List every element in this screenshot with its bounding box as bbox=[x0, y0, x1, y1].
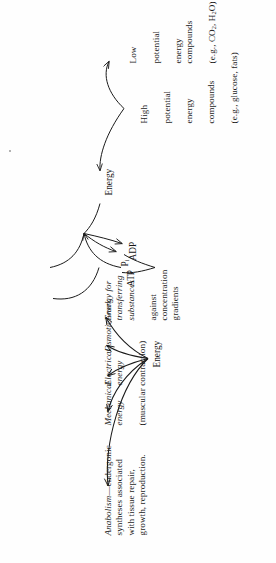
low-line-4: (e.g., CO2, H2O) bbox=[207, 0, 220, 63]
mechanical-rest: (muscular contraction) bbox=[137, 305, 148, 425]
transport-rest: against concentration gradients bbox=[148, 210, 182, 320]
low-line-3: energy compounds bbox=[173, 0, 195, 63]
low-line-4-post: O) bbox=[207, 1, 217, 11]
figure-page: Energy Energy ATP Pi ADP High potential … bbox=[0, 0, 276, 563]
anabolism-italic: Anabolism bbox=[103, 495, 113, 535]
low-line-2: potential bbox=[151, 0, 162, 63]
low-line-4-mid: , H bbox=[207, 14, 217, 25]
transport-italic: Energy for transferring substances bbox=[103, 210, 137, 320]
high-line-5: (e.g., glucose, fats) bbox=[229, 52, 240, 123]
diagram-canvas: Energy Energy ATP Pi ADP High potential … bbox=[0, 0, 276, 563]
arrow-high-to-energy bbox=[100, 108, 124, 170]
node-energy-mid-text: Energy bbox=[104, 168, 114, 195]
low-line-1: Low bbox=[128, 0, 139, 63]
node-energy-mid: Energy bbox=[104, 168, 114, 195]
low-line-4-pre: (e.g., CO bbox=[207, 29, 217, 63]
label-low-potential: Low potential energy compounds (e.g., CO… bbox=[117, 0, 230, 63]
arrow-cycle-outer bbox=[50, 233, 84, 267]
arrow-energy-to-low bbox=[106, 61, 124, 108]
label-transport-energy: Energy for transferring substances again… bbox=[92, 210, 193, 320]
